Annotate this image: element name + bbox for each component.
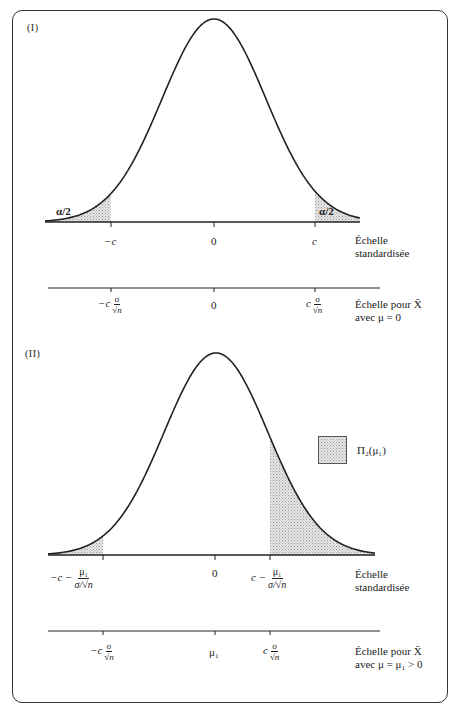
- scale-label-line2: standardisée: [355, 581, 409, 594]
- frac-num: σ: [114, 294, 121, 305]
- panel-2-graph: [48, 353, 380, 635]
- diagram-canvas: [0, 0, 457, 717]
- xbar-tick-mid: 0: [211, 299, 217, 311]
- fraction: σ√n: [270, 641, 279, 662]
- tick-prefix: c −: [251, 571, 266, 583]
- scale-label-xbar-2: Échelle pour X̄ avec μ = μ₁ > 0: [355, 645, 422, 671]
- fraction: σ√n: [112, 294, 121, 315]
- xbar2-tick-right: cσ√n: [263, 641, 279, 662]
- tick-label-c: c: [312, 235, 317, 247]
- legend-swatch: [318, 436, 347, 464]
- left-tail-shaded-area: [45, 194, 111, 223]
- panel-1-label: (I): [27, 22, 39, 33]
- scale-label-line2: avec μ = μ₁ > 0: [355, 658, 422, 671]
- left-tail-shaded-area: [48, 536, 103, 555]
- frac-den: √n: [313, 305, 322, 315]
- right-tail-label: α/2: [319, 205, 334, 217]
- frac-den: σ/√n: [268, 579, 286, 591]
- xbar-tick-right: cσ√n: [306, 294, 322, 315]
- scale-label-xbar: Échelle pour X̄ avec μ = 0: [355, 298, 422, 324]
- frac-num: σ: [106, 641, 113, 652]
- fraction: μ₁σ/√n: [268, 566, 286, 591]
- std-tick-right: c −μ₁σ/√n: [251, 566, 286, 591]
- legend-label: Π₂(μ₁): [357, 444, 386, 456]
- scale-label-line1: Échelle: [355, 234, 409, 247]
- tick-prefix: c: [263, 644, 268, 656]
- xbar-tick-left: −cσ√n: [98, 294, 122, 315]
- fraction: σ√n: [104, 641, 113, 662]
- tick-prefix: −c: [90, 644, 102, 656]
- scale-label-line1: Échelle pour X̄: [355, 645, 422, 658]
- scale-label-line1: Échelle pour X̄: [355, 298, 422, 311]
- tick-prefix: c: [306, 297, 311, 309]
- tick-label-zero: 0: [211, 235, 217, 247]
- frac-den: √n: [112, 305, 121, 315]
- frac-num: μ₁: [78, 566, 89, 579]
- std-tick-mid: 0: [212, 567, 218, 579]
- scale-label-standardized: Échelle standardisée: [355, 234, 409, 260]
- fraction: μ₁σ/√n: [74, 566, 92, 591]
- scale-label-line2: standardisée: [355, 247, 409, 260]
- normal-curve: [45, 19, 360, 221]
- panel-2-label: (II): [25, 348, 40, 359]
- std-tick-left: −c −μ₁σ/√n: [50, 566, 93, 591]
- tick-prefix: −c −: [50, 571, 72, 583]
- tick-label-minus-c: −c: [104, 235, 116, 247]
- frac-num: μ₁: [272, 566, 283, 579]
- scale-label-line1: Échelle: [355, 568, 409, 581]
- frac-den: σ/√n: [74, 579, 92, 591]
- frac-den: √n: [104, 652, 113, 662]
- scale-label-line2: avec μ = 0: [355, 311, 422, 324]
- frac-num: σ: [314, 294, 321, 305]
- tick-prefix: −c: [98, 297, 110, 309]
- frac-num: σ: [271, 641, 278, 652]
- left-tail-label: α/2: [56, 205, 71, 217]
- xbar2-tick-mid: μ₁: [209, 646, 219, 658]
- panel-1-graph: [45, 19, 380, 292]
- xbar2-tick-left: −cσ√n: [90, 641, 114, 662]
- fraction: σ√n: [313, 294, 322, 315]
- scale-label-standardized-2: Échelle standardisée: [355, 568, 409, 594]
- frac-den: √n: [270, 652, 279, 662]
